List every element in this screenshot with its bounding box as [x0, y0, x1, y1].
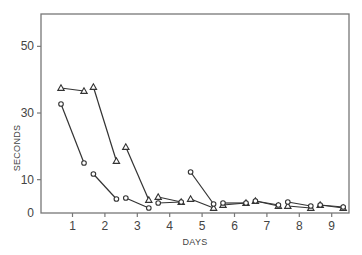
series-circles — [59, 102, 346, 211]
y-tick-label: 50 — [21, 39, 35, 53]
circle-marker — [318, 203, 323, 208]
circle-marker — [286, 200, 291, 205]
circle-marker — [188, 170, 193, 175]
circle-marker — [91, 172, 96, 177]
x-tick-label: 6 — [231, 219, 238, 233]
circle-marker — [276, 203, 281, 208]
triangle-marker — [123, 144, 129, 150]
x-tick-label: 9 — [328, 219, 335, 233]
x-tick-label: 8 — [296, 219, 303, 233]
triangle-marker — [155, 194, 161, 200]
circle-marker — [221, 201, 226, 206]
circle-marker — [179, 200, 184, 205]
data-series — [58, 84, 347, 211]
plot-frame — [41, 14, 349, 213]
segment-line — [158, 202, 181, 203]
y-tick-label: 0 — [27, 206, 34, 220]
y-axis-title: SECONDS — [12, 125, 22, 172]
x-tick-label: 5 — [199, 219, 206, 233]
circle-marker — [244, 201, 249, 206]
segment-line — [126, 198, 149, 208]
series-triangles — [58, 84, 347, 211]
segment-line — [126, 147, 149, 200]
triangle-marker — [187, 196, 193, 202]
triangle-marker — [113, 158, 119, 164]
y-axis-ticks: 0103050 — [21, 39, 41, 220]
circle-marker — [82, 161, 87, 166]
circle-marker — [309, 204, 314, 209]
x-tick-label: 1 — [69, 219, 76, 233]
y-tick-label: 10 — [21, 173, 35, 187]
circle-marker — [253, 199, 258, 204]
y-tick-label: 30 — [21, 106, 35, 120]
x-axis-title: DAYS — [182, 237, 207, 247]
x-tick-label: 7 — [264, 219, 271, 233]
x-tick-label: 3 — [134, 219, 141, 233]
circle-marker — [59, 102, 64, 107]
segment-line — [93, 174, 116, 199]
line-chart: 0103050 123456789 DAYS SECONDS — [0, 0, 362, 255]
x-tick-label: 2 — [102, 219, 109, 233]
circle-marker — [156, 201, 161, 206]
segment-line — [93, 87, 116, 161]
circle-marker — [124, 196, 129, 201]
triangle-marker — [146, 197, 152, 203]
circle-marker — [341, 205, 346, 210]
triangle-marker — [58, 85, 64, 91]
segment-line — [191, 172, 214, 204]
circle-marker — [211, 202, 216, 207]
segment-line — [288, 206, 311, 208]
x-axis-ticks: 123456789 — [69, 213, 335, 233]
segment-line — [61, 104, 84, 163]
segment-line — [288, 202, 311, 206]
x-tick-label: 4 — [166, 219, 173, 233]
circle-marker — [147, 206, 152, 211]
segment-line — [191, 199, 214, 208]
circle-marker — [114, 197, 119, 202]
triangle-marker — [90, 84, 96, 90]
